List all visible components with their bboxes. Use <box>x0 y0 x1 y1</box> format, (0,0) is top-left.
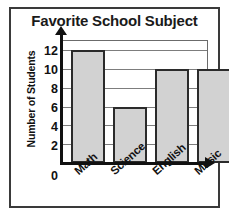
y-axis-arrow-icon <box>55 26 67 35</box>
y-axis-line <box>60 33 63 164</box>
y-tick-label: 12 <box>36 45 58 58</box>
bar-math[interactable] <box>71 50 105 163</box>
y-tick-label: 8 <box>36 83 58 96</box>
y-tick-label: 4 <box>36 121 58 134</box>
y-tick-label: 0 <box>36 170 58 183</box>
y-tick-label: 2 <box>36 140 58 153</box>
y-tick-label: 10 <box>36 64 58 77</box>
y-tick-label: 6 <box>36 102 58 115</box>
chart-figure: Favorite School Subject Number of Studen… <box>0 0 229 216</box>
